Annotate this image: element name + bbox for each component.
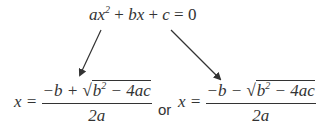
numerator: −b + √b2 − 4ac: [42, 80, 152, 103]
fraction: −b − √b2 − 4ac2a: [206, 80, 316, 126]
radicand: b2 − 4ac: [256, 80, 315, 101]
arrow-right: [171, 30, 220, 79]
radicand-rest: − 4ac: [270, 81, 315, 100]
or-connector: or: [152, 100, 177, 120]
denominator: 2a: [206, 103, 316, 126]
lhs: x =: [178, 92, 206, 111]
numerator-prefix: −b −: [207, 81, 247, 100]
sqrt-icon: √: [246, 81, 255, 100]
solution-minus: x = −b − √b2 − 4ac2a: [178, 80, 316, 126]
or-text: or: [158, 101, 171, 118]
arrow-left: [80, 30, 101, 75]
lhs: x =: [14, 92, 42, 111]
fraction: −b + √b2 − 4ac2a: [42, 80, 152, 126]
solution-plus: x = −b + √b2 − 4ac2a: [14, 80, 152, 126]
denominator: 2a: [42, 103, 152, 126]
numerator: −b − √b2 − 4ac: [206, 80, 316, 103]
numerator-prefix: −b +: [43, 81, 83, 100]
radicand: b2 − 4ac: [92, 80, 151, 101]
sqrt-icon: √: [82, 81, 91, 100]
radicand-rest: − 4ac: [106, 81, 151, 100]
